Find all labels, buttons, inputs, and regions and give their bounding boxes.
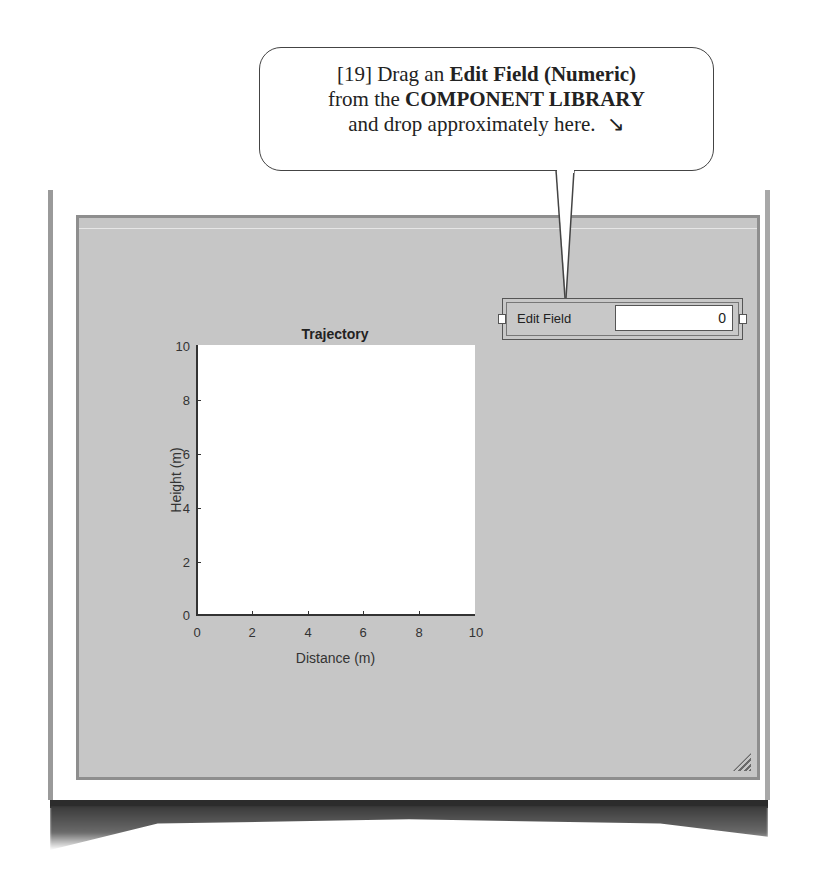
xtick-label: 10 bbox=[464, 625, 488, 640]
callout-tail-join bbox=[556, 168, 576, 173]
page-shadow bbox=[50, 806, 768, 850]
left-resize-handle-icon[interactable] bbox=[498, 314, 506, 324]
axes-xlabel: Distance (m) bbox=[196, 650, 475, 666]
xtick-mark bbox=[308, 611, 309, 615]
ytick-mark bbox=[197, 508, 201, 509]
arrow-down-right-icon: ↘ bbox=[607, 112, 625, 136]
xtick-mark bbox=[419, 611, 420, 615]
xtick-label: 0 bbox=[185, 625, 209, 640]
xtick-mark bbox=[252, 611, 253, 615]
callout-line-2: from the COMPONENT LIBRARY bbox=[260, 87, 713, 112]
instruction-callout: [19] Drag an Edit Field (Numeric) from t… bbox=[259, 47, 714, 171]
resize-grip-icon[interactable] bbox=[733, 753, 751, 771]
xtick-mark bbox=[363, 611, 364, 615]
edit-field-component[interactable]: Edit Field 0 bbox=[502, 298, 743, 340]
right-resize-handle-icon[interactable] bbox=[739, 314, 747, 324]
callout-line-3: and drop approximately here. ↘ bbox=[260, 112, 713, 137]
xtick-label: 4 bbox=[296, 625, 320, 640]
ytick-label: 0 bbox=[168, 608, 190, 623]
axes-title: Trajectory bbox=[195, 326, 475, 342]
ytick-mark bbox=[197, 562, 201, 563]
axes-plot-area[interactable] bbox=[196, 345, 475, 616]
callout-line-1: [19] Drag an Edit Field (Numeric) bbox=[260, 62, 713, 87]
edit-field-label: Edit Field bbox=[517, 311, 571, 326]
xtick-label: 8 bbox=[407, 625, 431, 640]
xtick-label: 6 bbox=[351, 625, 375, 640]
edit-field-numeric-input[interactable]: 0 bbox=[615, 305, 733, 331]
ytick-mark bbox=[197, 454, 201, 455]
ytick-label: 2 bbox=[168, 555, 190, 570]
ytick-label: 8 bbox=[168, 393, 190, 408]
ytick-label: 10 bbox=[168, 339, 190, 354]
xtick-label: 2 bbox=[240, 625, 264, 640]
ytick-mark bbox=[197, 400, 201, 401]
axes-ylabel: Height (m) bbox=[168, 430, 184, 530]
